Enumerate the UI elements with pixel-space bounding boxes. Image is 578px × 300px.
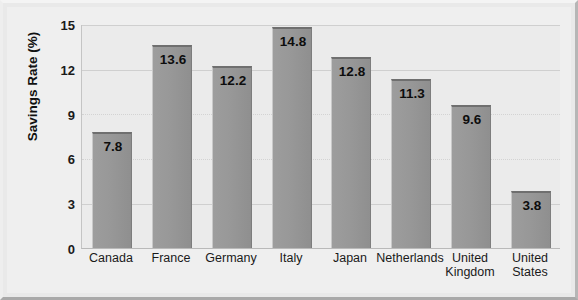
bar-rect[interactable]: 12.2 [212, 66, 252, 248]
chart-canvas: Savings Rate (%) 0 3 6 9 12 15 7.813.612… [7, 7, 571, 293]
bar-rect[interactable]: 11.3 [391, 79, 431, 248]
bar-rect[interactable]: 3.8 [511, 191, 551, 248]
y-tick-label: 0 [35, 242, 75, 257]
y-tick-label: 12 [35, 62, 75, 77]
bar-rect[interactable]: 12.8 [331, 57, 371, 248]
y-axis: 0 3 6 9 12 15 [17, 25, 75, 249]
bar-rect[interactable]: 7.8 [92, 132, 132, 248]
bar-value-label: 11.3 [392, 86, 432, 101]
y-tick-label: 15 [35, 18, 75, 33]
y-tick-label: 6 [35, 152, 75, 167]
bar-rect[interactable]: 14.8 [272, 27, 312, 248]
x-axis: CanadaFranceGermanyItalyJapanNetherlands… [81, 251, 560, 291]
bar-value-label: 3.8 [512, 198, 552, 213]
x-tick-label-line: States [494, 265, 566, 279]
plot-area: 7.813.612.214.812.811.39.63.8 [81, 25, 560, 249]
bar-rect[interactable]: 9.6 [451, 105, 491, 248]
bar-value-label: 9.6 [452, 112, 492, 127]
bar-value-label: 13.6 [153, 52, 193, 67]
bar-value-label: 14.8 [273, 34, 313, 49]
bar-value-label: 12.8 [332, 64, 372, 79]
bar-rect[interactable]: 13.6 [152, 45, 192, 248]
y-tick-label: 3 [35, 197, 75, 212]
gridline-15 [82, 25, 560, 26]
chart-frame: Savings Rate (%) 0 3 6 9 12 15 7.813.612… [0, 0, 578, 300]
y-tick-label: 9 [35, 107, 75, 122]
bar-value-label: 7.8 [93, 139, 133, 154]
x-tick-label-line: United [494, 251, 566, 265]
bar-value-label: 12.2 [213, 73, 253, 88]
x-tick-label: UnitedStates [494, 251, 566, 279]
